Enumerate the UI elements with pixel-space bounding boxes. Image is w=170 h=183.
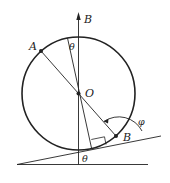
- point-O: [77, 92, 81, 96]
- label-theta-top: θ: [69, 41, 75, 52]
- point-A: [39, 49, 43, 53]
- incline-line: [17, 136, 161, 165]
- point-B: [114, 134, 118, 138]
- arrow-up-icon: [76, 12, 80, 20]
- label-theta-bottom: θ: [82, 153, 88, 164]
- label-O: O: [85, 87, 94, 100]
- label-B: B: [122, 131, 131, 144]
- diagram-canvas: B A θ O B φ θ: [0, 0, 170, 183]
- label-phi: φ: [138, 116, 145, 127]
- label-axis-B: B: [83, 13, 92, 26]
- label-A: A: [28, 40, 37, 53]
